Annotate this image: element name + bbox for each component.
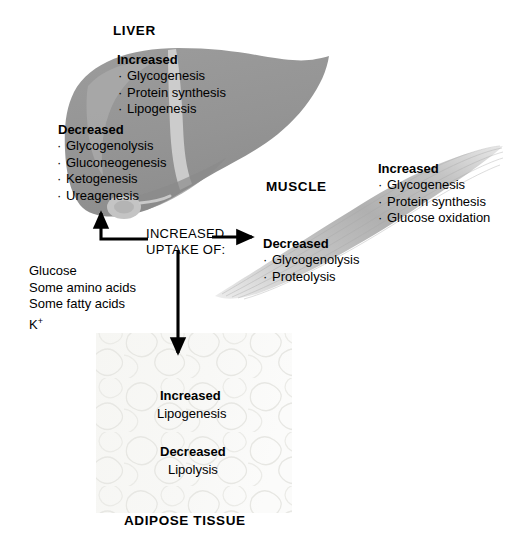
list-item: ·Glycogenesis: [118, 68, 226, 85]
liver-decreased-list: ·Glycogenolysis ·Gluconeogenesis ·Ketoge…: [57, 138, 166, 204]
muscle-increased-list: ·Glycogenesis ·Protein synthesis ·Glucos…: [378, 177, 490, 227]
adipose-increased-item: Lipogenesis: [157, 406, 226, 421]
list-item: ·Protein synthesis: [378, 194, 490, 211]
list-item: ·Ureagenesis: [57, 188, 166, 205]
bullet-icon: ·: [118, 101, 127, 118]
list-item: Glucose: [29, 263, 136, 280]
bullet-icon: ·: [263, 269, 272, 286]
bullet-icon: ·: [57, 188, 66, 205]
liver-increased-header: Increased: [117, 52, 178, 67]
bullet-icon: ·: [57, 171, 66, 188]
list-item: ·Proteolysis: [263, 269, 359, 286]
adipose-decreased-item: Lipolysis: [168, 462, 218, 477]
bullet-icon: ·: [118, 68, 127, 85]
adipose-tissue-illustration: [96, 333, 292, 513]
potassium-symbol: K: [29, 317, 38, 332]
insulin-effects-diagram: LIVER Increased ·Glycogenesis ·Protein s…: [0, 0, 521, 546]
adipose-decreased-header: Decreased: [160, 444, 226, 459]
increased-uptake-heading: INCREASED UPTAKE OF:: [146, 226, 225, 257]
muscle-decreased-list: ·Glycogenolysis ·Proteolysis: [263, 252, 359, 285]
list-item: ·Glycogenolysis: [57, 138, 166, 155]
adipose-title: ADIPOSE TISSUE: [124, 513, 246, 529]
list-item: ·Ketogenesis: [57, 171, 166, 188]
muscle-decreased-header: Decreased: [263, 236, 329, 251]
bullet-icon: ·: [57, 138, 66, 155]
muscle-increased-header: Increased: [378, 161, 439, 176]
liver-title: LIVER: [113, 23, 156, 39]
increased-uptake-line1: INCREASED: [146, 226, 225, 242]
list-item: Some amino acids: [29, 280, 136, 297]
bullet-icon: ·: [57, 155, 66, 172]
bullet-icon: ·: [118, 85, 127, 102]
list-item: ·Lipogenesis: [118, 101, 226, 118]
bullet-icon: ·: [378, 177, 387, 194]
uptake-substance-list: Glucose Some amino acids Some fatty acid…: [29, 263, 136, 333]
potassium-charge: +: [38, 316, 43, 326]
bullet-icon: ·: [378, 194, 387, 211]
adipose-increased-header: Increased: [160, 388, 221, 403]
list-item: ·Glycogenesis: [378, 177, 490, 194]
bullet-icon: ·: [263, 252, 272, 269]
muscle-title: MUSCLE: [266, 179, 327, 195]
list-item: K+: [29, 313, 136, 334]
bullet-icon: ·: [378, 210, 387, 227]
list-item: ·Glycogenolysis: [263, 252, 359, 269]
list-item: ·Protein synthesis: [118, 85, 226, 102]
list-item: ·Gluconeogenesis: [57, 155, 166, 172]
list-item: ·Glucose oxidation: [378, 210, 490, 227]
increased-uptake-line2: UPTAKE OF:: [146, 242, 225, 258]
liver-decreased-header: Decreased: [58, 122, 124, 137]
liver-increased-list: ·Glycogenesis ·Protein synthesis ·Lipoge…: [118, 68, 226, 118]
list-item: Some fatty acids: [29, 296, 136, 313]
